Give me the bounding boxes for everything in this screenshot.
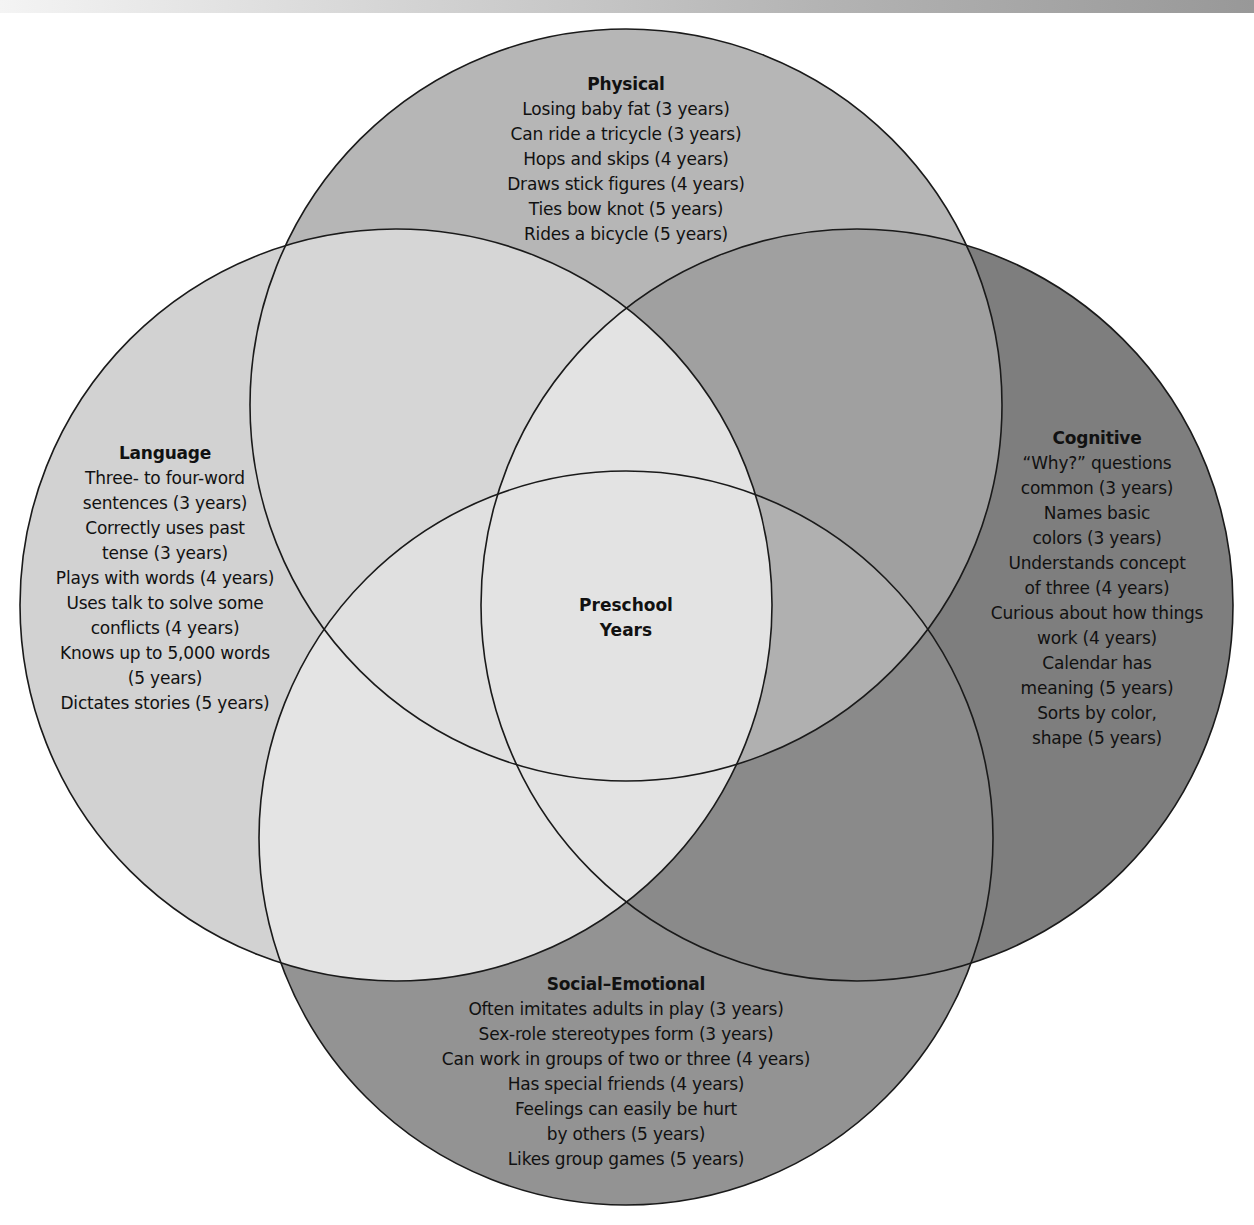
social-emotional-item: Often imitates adults in play (3 years) [406,997,846,1022]
cognitive-item: Curious about how things [962,601,1232,626]
language-item: Dictates stories (5 years) [20,691,310,716]
language-label-block: Language Three- to four-word sentences (… [20,441,310,716]
cognitive-item: Understands concept [962,551,1232,576]
physical-title: Physical [476,72,776,97]
cognitive-label-block: Cognitive “Why?” questions common (3 yea… [962,426,1232,751]
social-emotional-item: Has special friends (4 years) [406,1072,846,1097]
physical-label-block: Physical Losing baby fat (3 years) Can r… [476,72,776,247]
cognitive-item: Calendar has [962,651,1232,676]
physical-item: Hops and skips (4 years) [476,147,776,172]
physical-item: Losing baby fat (3 years) [476,97,776,122]
cognitive-item: Names basic [962,501,1232,526]
cognitive-item: of three (4 years) [962,576,1232,601]
cognitive-item: meaning (5 years) [962,676,1232,701]
center-label-block: Preschool Years [526,593,726,643]
physical-item: Rides a bicycle (5 years) [476,222,776,247]
language-item: sentences (3 years) [20,491,310,516]
language-item: tense (3 years) [20,541,310,566]
physical-item: Draws stick figures (4 years) [476,172,776,197]
cognitive-item: common (3 years) [962,476,1232,501]
cognitive-item: shape (5 years) [962,726,1232,751]
physical-item: Can ride a tricycle (3 years) [476,122,776,147]
social-emotional-label-block: Social–Emotional Often imitates adults i… [406,972,846,1172]
cognitive-item: Sorts by color, [962,701,1232,726]
social-emotional-title: Social–Emotional [406,972,846,997]
language-item: Uses talk to solve some [20,591,310,616]
social-emotional-item: Can work in groups of two or three (4 ye… [406,1047,846,1072]
language-item: (5 years) [20,666,310,691]
social-emotional-item: Feelings can easily be hurt [406,1097,846,1122]
cognitive-title: Cognitive [962,426,1232,451]
language-title: Language [20,441,310,466]
social-emotional-item: by others (5 years) [406,1122,846,1147]
language-item: Three- to four-word [20,466,310,491]
social-emotional-item: Likes group games (5 years) [406,1147,846,1172]
social-emotional-item: Sex-role stereotypes form (3 years) [406,1022,846,1047]
cognitive-item: colors (3 years) [962,526,1232,551]
center-line: Years [526,618,726,643]
language-item: conflicts (4 years) [20,616,310,641]
cognitive-item: “Why?” questions [962,451,1232,476]
language-item: Knows up to 5,000 words [20,641,310,666]
language-item: Correctly uses past [20,516,310,541]
cognitive-item: work (4 years) [962,626,1232,651]
center-line: Preschool [526,593,726,618]
physical-item: Ties bow knot (5 years) [476,197,776,222]
language-item: Plays with words (4 years) [20,566,310,591]
